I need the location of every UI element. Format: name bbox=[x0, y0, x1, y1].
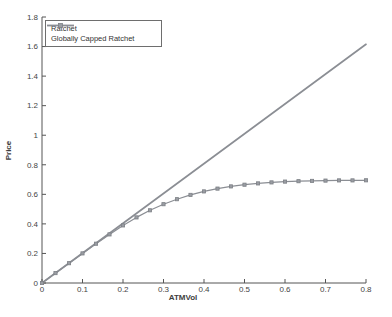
series-marker-1 bbox=[216, 187, 219, 190]
series-marker-1 bbox=[175, 198, 178, 201]
capped-ratchet-line-sample-icon bbox=[46, 21, 75, 30]
y-tick-label: 0.4 bbox=[27, 220, 39, 229]
series-marker-1 bbox=[283, 180, 286, 183]
series-marker-1 bbox=[108, 233, 111, 236]
series-marker-1 bbox=[67, 262, 70, 265]
series-marker-1 bbox=[243, 183, 246, 186]
legend-box: Ratchet Globally Capped Ratchet bbox=[45, 20, 162, 47]
series-marker-1 bbox=[162, 203, 165, 206]
series-marker-1 bbox=[364, 179, 367, 182]
y-axis-label: Price bbox=[4, 96, 13, 206]
y-tick-label: 0 bbox=[34, 279, 39, 288]
series-marker-1 bbox=[310, 179, 313, 182]
series-marker-1 bbox=[324, 179, 327, 182]
series-marker-1 bbox=[351, 179, 354, 182]
series-marker-1 bbox=[148, 209, 151, 212]
legend-label-capped-ratchet: Globally Capped Ratchet bbox=[51, 34, 134, 43]
series-marker-1 bbox=[81, 252, 84, 255]
square-marker-icon bbox=[59, 24, 63, 28]
series-marker-1 bbox=[94, 242, 97, 245]
chart-figure: 00.10.20.30.40.50.60.70.800.20.40.60.811… bbox=[0, 0, 392, 317]
series-marker-1 bbox=[202, 190, 205, 193]
y-tick-label: 0.6 bbox=[27, 190, 39, 199]
y-tick-label: 1.8 bbox=[27, 13, 39, 22]
series-marker-1 bbox=[121, 224, 124, 227]
series-marker-1 bbox=[256, 182, 259, 185]
series-marker-1 bbox=[189, 193, 192, 196]
x-axis-label: ATMVol bbox=[0, 293, 366, 302]
y-tick-label: 1.2 bbox=[27, 101, 39, 110]
y-tick-label: 0.8 bbox=[27, 161, 39, 170]
y-tick-label: 1 bbox=[34, 131, 39, 140]
series-marker-1 bbox=[337, 179, 340, 182]
y-tick-label: 1.6 bbox=[27, 42, 39, 51]
y-tick-label: 1.4 bbox=[27, 72, 39, 81]
y-tick-label: 0.2 bbox=[27, 249, 39, 258]
plot-area: 00.10.20.30.40.50.60.70.800.20.40.60.811… bbox=[0, 0, 392, 317]
series-marker-1 bbox=[135, 216, 138, 219]
series-line-1 bbox=[42, 180, 366, 283]
series-marker-1 bbox=[229, 185, 232, 188]
series-marker-1 bbox=[40, 281, 43, 284]
series-marker-1 bbox=[270, 181, 273, 184]
series-marker-1 bbox=[54, 272, 57, 275]
series-marker-1 bbox=[297, 180, 300, 183]
legend-item-capped-ratchet: Globally Capped Ratchet bbox=[51, 34, 157, 43]
